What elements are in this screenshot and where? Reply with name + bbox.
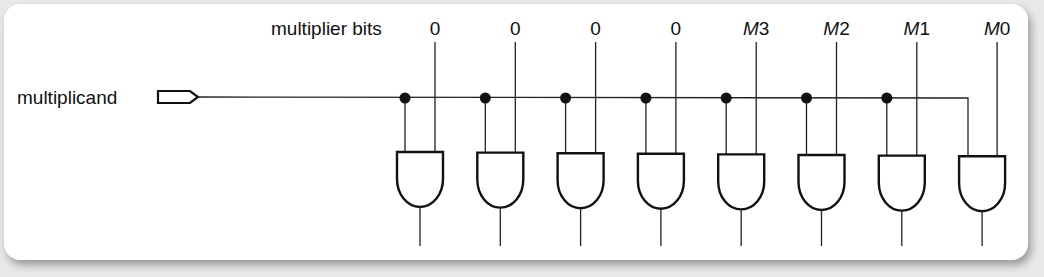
multiplier-bits-label: multiplier bits <box>271 18 382 39</box>
and-gate-icon <box>959 156 1005 211</box>
junction-dot-icon <box>560 93 571 104</box>
and-gate-column: M1 <box>879 18 930 246</box>
and-gate-column: M2 <box>799 18 850 246</box>
input-port-icon <box>158 91 198 103</box>
junction-dot-icon <box>640 93 651 104</box>
multiplier-and-array-diagram: multiplier bits multiplicand 0000M3M2M1M… <box>0 0 1044 277</box>
junction-dot-icon <box>721 93 732 104</box>
and-gate-column: 0 <box>477 18 523 246</box>
bit-label: M1 <box>904 18 930 39</box>
bit-label: 0 <box>430 18 441 39</box>
and-gate-icon <box>718 154 764 209</box>
and-gate-icon <box>558 153 604 208</box>
and-gate-icon <box>397 152 443 207</box>
bit-label: M2 <box>823 18 849 39</box>
junction-dot-icon <box>881 93 892 104</box>
bit-label: 0 <box>590 18 601 39</box>
and-gate-column: M3 <box>718 18 769 246</box>
junction-dot-icon <box>480 93 491 104</box>
and-gate-icon <box>477 153 523 208</box>
and-gate-icon <box>879 156 925 211</box>
junction-dot-icon <box>400 93 411 104</box>
bit-label: 0 <box>510 18 521 39</box>
bit-label: M3 <box>743 18 769 39</box>
junction-dot-icon <box>801 93 812 104</box>
bit-label: 0 <box>671 18 682 39</box>
multiplicand-bus-line <box>198 97 968 155</box>
bit-label: M0 <box>984 18 1010 39</box>
and-gate-icon <box>638 154 684 209</box>
and-gate-column: M0 <box>959 18 1010 246</box>
and-gate-column: 0 <box>558 18 604 246</box>
and-gate-column: 0 <box>397 18 443 246</box>
multiplicand-label: multiplicand <box>17 87 117 108</box>
and-gate-column: 0 <box>638 18 684 246</box>
and-gate-icon <box>799 155 845 210</box>
